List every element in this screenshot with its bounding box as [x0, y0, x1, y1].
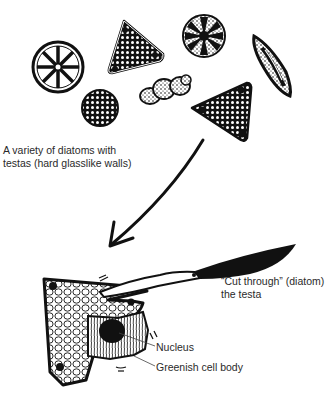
illustration-canvas	[0, 0, 334, 397]
cut-callout-line1: “Cut through” (diatom)	[221, 275, 324, 288]
cell-body-label: Greenish cell body	[156, 361, 243, 374]
chain-diatom-icon	[140, 75, 191, 104]
nucleus-label: Nucleus	[156, 341, 194, 354]
cut-callout-line2: the testa	[221, 288, 324, 301]
caption-top-line2: testas (hard glasslike walls)	[3, 157, 131, 170]
diatom-illustration: A variety of diatoms with testas (hard g…	[0, 0, 334, 397]
nucleus-icon	[99, 319, 125, 343]
cell-body-leader-line	[134, 356, 155, 366]
caption-top: A variety of diatoms with testas (hard g…	[3, 144, 131, 170]
wheel-diatom-icon	[33, 42, 83, 92]
caption-top-line1: A variety of diatoms with	[3, 144, 131, 157]
dotted-disc-diatom-icon	[82, 90, 118, 126]
large-triangle-diatom-icon	[192, 83, 251, 141]
spindle-diatom-icon	[254, 36, 291, 96]
triangle-diatom-icon	[109, 21, 163, 73]
cut-callout: “Cut through” (diatom) the testa	[221, 275, 324, 301]
star-disc-diatom-icon	[183, 15, 225, 57]
